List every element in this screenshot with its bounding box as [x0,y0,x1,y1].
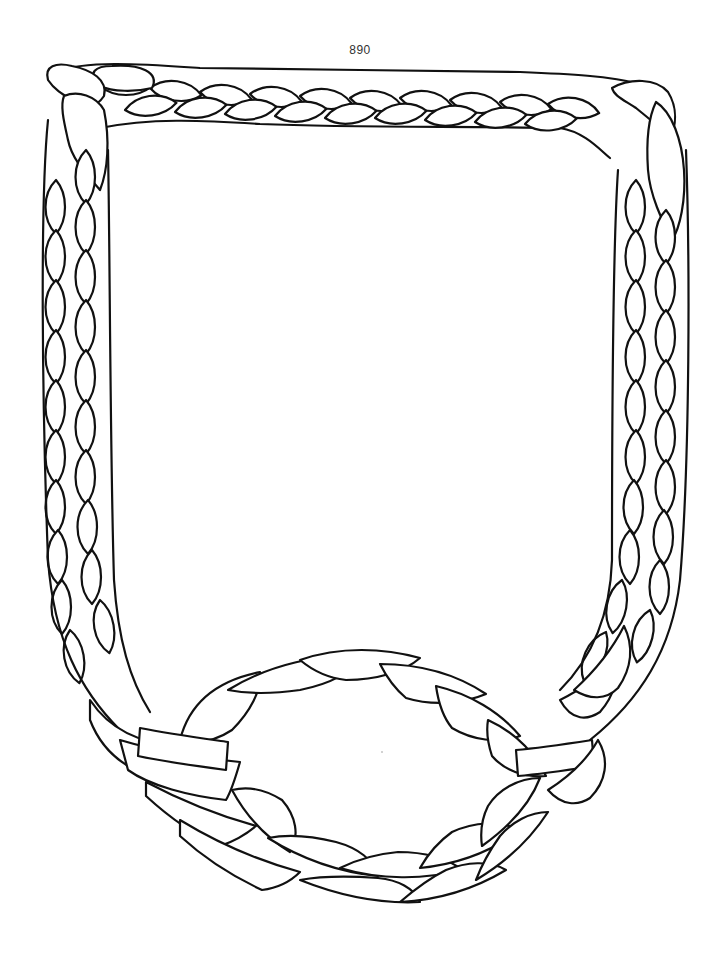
top-braid [52,64,640,158]
left-braid [43,120,150,730]
scan-speck [381,751,383,753]
top-right-corner [612,81,684,240]
braided-rope-frame [0,0,720,956]
